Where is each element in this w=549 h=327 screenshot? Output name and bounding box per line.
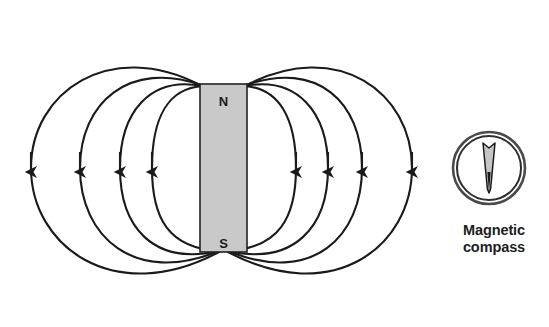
diagram-canvas: N S xyxy=(0,0,549,327)
field-arrows-left xyxy=(31,152,152,172)
compass-caption-line-2: compass xyxy=(440,239,548,256)
north-pole-label: N xyxy=(219,94,228,109)
south-pole-label: S xyxy=(219,236,228,251)
field-line-left-3 xyxy=(80,78,219,263)
magnetic-field-diagram: N S Magnetic compass xyxy=(0,0,549,327)
field-arrows-right xyxy=(296,152,412,172)
field-lines-right xyxy=(228,67,412,273)
magnetic-compass xyxy=(453,132,525,204)
bar-magnet: N S xyxy=(200,84,247,252)
bar-magnet-body xyxy=(200,84,247,252)
field-line-right-4 xyxy=(228,67,412,273)
field-line-left-4 xyxy=(31,67,219,273)
compass-caption: Magnetic compass xyxy=(440,222,548,256)
compass-caption-line-1: Magnetic xyxy=(440,222,548,239)
field-lines-left xyxy=(31,67,219,273)
